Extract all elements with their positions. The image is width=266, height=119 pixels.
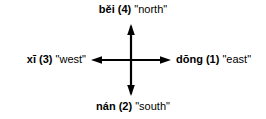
gloss-north: "north" [131,3,167,15]
arrow-right-icon [160,56,171,64]
arrow-down-icon [127,85,135,96]
arrow-up-icon [127,24,135,35]
arrow-left-icon [91,56,102,64]
direction-label-west: xī (3) "west" [0,53,86,66]
direction-label-east: dōng (1) "east" [176,53,266,66]
direction-label-south: nán (2) "south" [0,100,266,113]
compass-directions-diagram: běi (4) "north" xī (3) "west" dōng (1) "… [0,0,266,119]
tone-number-south: (2) [116,100,133,112]
tone-number-west: (3) [36,53,53,65]
gloss-west: "west" [53,53,86,65]
pinyin-east: dōng [176,53,203,65]
pinyin-north: běi [99,3,115,15]
direction-label-north: běi (4) "north" [0,3,266,16]
tone-number-east: (1) [203,53,220,65]
pinyin-south: nán [96,100,116,112]
tone-number-north: (4) [115,3,132,15]
gloss-south: "south" [132,100,170,112]
gloss-east: "east" [219,53,251,65]
pinyin-west: xī [27,53,36,65]
